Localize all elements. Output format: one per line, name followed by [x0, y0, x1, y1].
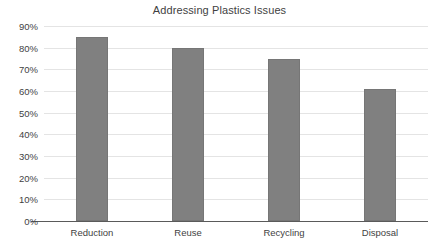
- y-axis-tick-label: 10%: [0, 194, 38, 205]
- y-axis-tick-label: 0%: [0, 216, 38, 227]
- bar: [172, 48, 204, 221]
- bar: [268, 59, 300, 222]
- y-axis-tick-label: 80%: [0, 42, 38, 53]
- y-axis-tick-label: 70%: [0, 64, 38, 75]
- y-axis-tick-label: 60%: [0, 86, 38, 97]
- y-axis-tick-label: 30%: [0, 151, 38, 162]
- x-axis-tick-label: Disposal: [362, 227, 398, 238]
- y-axis-tick-label: 90%: [0, 21, 38, 32]
- bar: [364, 89, 396, 221]
- bar: [76, 37, 108, 221]
- x-axis-tick-label: Reduction: [71, 227, 114, 238]
- y-axis-tick-label: 20%: [0, 172, 38, 183]
- bar-chart: Addressing Plastics Issues 0%10%20%30%40…: [0, 0, 439, 250]
- chart-title: Addressing Plastics Issues: [0, 4, 439, 16]
- y-axis-tick-label: 40%: [0, 129, 38, 140]
- bars-group: [44, 26, 428, 221]
- y-axis-tick-label: 50%: [0, 107, 38, 118]
- plot-area: [44, 26, 428, 221]
- x-axis-line: [31, 221, 428, 222]
- x-axis-tick-label: Reuse: [174, 227, 201, 238]
- x-axis-tick-label: Recycling: [263, 227, 304, 238]
